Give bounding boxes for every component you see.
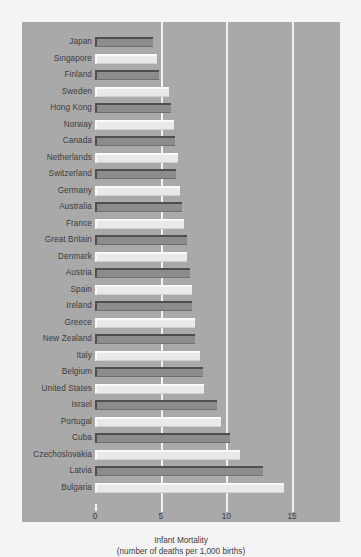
bar-latvia (95, 466, 263, 476)
bar-label-switzerland: Switzerland (0, 168, 92, 180)
bar-sweden (95, 87, 169, 97)
bar-bulgaria (95, 483, 284, 493)
chart-figure: JapanSingaporeFinlandSwedenHong KongNorw… (0, 0, 361, 557)
bar-italy (95, 351, 200, 361)
bar-label-greece: Greece (0, 317, 92, 329)
bar-finland (95, 70, 159, 80)
chart-row: Finland (22, 69, 340, 86)
chart-row: Belgium (22, 366, 340, 383)
bar-label-austria: Austria (0, 267, 92, 279)
bar-france (95, 219, 184, 229)
chart-row: Japan (22, 36, 340, 53)
chart-row: Netherlands (22, 152, 340, 169)
x-axis-title-line1: Infant Mortality (22, 536, 340, 547)
chart-bars: JapanSingaporeFinlandSwedenHong KongNorw… (22, 22, 340, 522)
bar-label-united-states: United States (0, 383, 92, 395)
bar-label-norway: Norway (0, 119, 92, 131)
bar-cuba (95, 433, 230, 443)
bar-label-canada: Canada (0, 135, 92, 147)
bar-label-great-britain: Great Britain (0, 234, 92, 246)
bar-singapore (95, 54, 157, 64)
chart-row: Czechoslovakia (22, 449, 340, 466)
bar-greece (95, 318, 195, 328)
x-tick-10 (226, 504, 228, 511)
bar-label-finland: Finland (0, 69, 92, 81)
chart-row: United States (22, 383, 340, 400)
chart-row: Latvia (22, 465, 340, 482)
bar-label-israel: Israel (0, 399, 92, 411)
bar-label-ireland: Ireland (0, 300, 92, 312)
x-tick-15 (292, 504, 294, 511)
x-tick-label-10: 10 (211, 512, 241, 521)
bar-ireland (95, 301, 192, 311)
bar-label-hong-kong: Hong Kong (0, 102, 92, 114)
bar-label-germany: Germany (0, 185, 92, 197)
chart-row: Sweden (22, 86, 340, 103)
chart-row: Italy (22, 350, 340, 367)
chart-row: Canada (22, 135, 340, 152)
chart-row: Great Britain (22, 234, 340, 251)
bar-label-australia: Australia (0, 201, 92, 213)
chart-row: Norway (22, 119, 340, 136)
chart-plot-panel: JapanSingaporeFinlandSwedenHong KongNorw… (22, 22, 340, 522)
chart-row: Switzerland (22, 168, 340, 185)
x-tick-label-5: 5 (146, 512, 176, 521)
bar-label-latvia: Latvia (0, 465, 92, 477)
chart-row: Cuba (22, 432, 340, 449)
bar-label-spain: Spain (0, 284, 92, 296)
bar-switzerland (95, 169, 176, 179)
bar-austria (95, 268, 190, 278)
bar-label-denmark: Denmark (0, 251, 92, 263)
bar-portugal (95, 417, 221, 427)
chart-row: Bulgaria (22, 482, 340, 499)
chart-row: Israel (22, 399, 340, 416)
bar-belgium (95, 367, 203, 377)
chart-row: New Zealand (22, 333, 340, 350)
bar-hong-kong (95, 103, 171, 113)
bar-united-states (95, 384, 204, 394)
bar-label-new-zealand: New Zealand (0, 333, 92, 345)
chart-row: Portugal (22, 416, 340, 433)
bar-label-france: France (0, 218, 92, 230)
bar-label-sweden: Sweden (0, 86, 92, 98)
bar-label-belgium: Belgium (0, 366, 92, 378)
bar-israel (95, 400, 217, 410)
chart-row: France (22, 218, 340, 235)
bar-label-netherlands: Netherlands (0, 152, 92, 164)
chart-row: Germany (22, 185, 340, 202)
bar-denmark (95, 252, 187, 262)
bar-label-singapore: Singapore (0, 53, 92, 65)
chart-row: Hong Kong (22, 102, 340, 119)
bar-great-britain (95, 235, 187, 245)
bar-germany (95, 186, 180, 196)
bar-label-bulgaria: Bulgaria (0, 482, 92, 494)
x-tick-5 (161, 504, 163, 511)
bar-spain (95, 285, 192, 295)
x-tick-label-15: 15 (277, 512, 307, 521)
x-axis-title: Infant Mortality (number of deaths per 1… (22, 536, 340, 557)
bar-label-portugal: Portugal (0, 416, 92, 428)
bar-label-cuba: Cuba (0, 432, 92, 444)
chart-row: Austria (22, 267, 340, 284)
chart-row: Denmark (22, 251, 340, 268)
bar-canada (95, 136, 175, 146)
chart-row: Greece (22, 317, 340, 334)
chart-row: Spain (22, 284, 340, 301)
x-tick-0 (95, 504, 97, 511)
bar-label-japan: Japan (0, 36, 92, 48)
bar-label-czechoslovakia: Czechoslovakia (0, 449, 92, 461)
chart-row: Ireland (22, 300, 340, 317)
bar-netherlands (95, 153, 178, 163)
bar-norway (95, 120, 174, 130)
x-axis-title-line2: (number of deaths per 1,000 births) (22, 547, 340, 557)
bar-czechoslovakia (95, 450, 240, 460)
chart-x-axis: 051015 Infant Mortality (number of death… (22, 504, 340, 544)
chart-row: Australia (22, 201, 340, 218)
bar-label-italy: Italy (0, 350, 92, 362)
bar-australia (95, 202, 182, 212)
chart-row: Singapore (22, 53, 340, 70)
x-tick-label-0: 0 (80, 512, 110, 521)
bar-new-zealand (95, 334, 195, 344)
bar-japan (95, 37, 153, 47)
